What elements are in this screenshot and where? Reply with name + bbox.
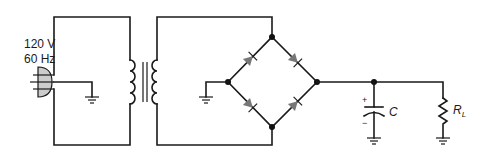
rectifier-circuit-diagram: 120 V 60 Hz [0, 0, 487, 161]
source-frequency-label: 60 Hz [24, 52, 55, 66]
ac-plug-icon [30, 67, 54, 97]
ground-icon [85, 97, 99, 103]
transformer-secondary-coil-icon [152, 60, 157, 104]
transformer-core-icon [143, 62, 147, 102]
plug-ground-wire [54, 82, 92, 97]
diode-bridge [225, 34, 320, 130]
capacitor-plus-label: + [362, 95, 367, 105]
source-voltage-label: 120 V [24, 37, 55, 51]
primary-top-wire [54, 17, 130, 75]
capacitor-minus-label: − [362, 118, 367, 128]
bridge-ground-wire [206, 82, 228, 97]
load-resistor-label: RL [453, 103, 466, 119]
ground-icon [199, 97, 213, 103]
output-wire [317, 82, 443, 98]
transformer-primary-coil-icon [130, 60, 135, 104]
capacitor-label: C [389, 105, 398, 119]
resistor-icon [439, 98, 447, 138]
capacitor-icon [364, 82, 384, 138]
ground-icon [367, 138, 381, 144]
ground-icon [436, 138, 450, 144]
